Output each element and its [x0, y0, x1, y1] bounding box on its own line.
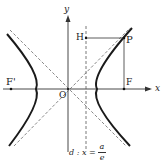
directrix-numerator: a [98, 143, 106, 151]
origin-label: O [59, 91, 66, 100]
y-axis-arrow-icon [66, 15, 71, 22]
point-h-label: H [76, 33, 84, 42]
diagram-svg [0, 0, 165, 166]
x-axis-arrow-icon [145, 87, 152, 92]
directrix-equation: d : x = [69, 149, 96, 157]
point-f-prime [10, 88, 13, 91]
point-origin [67, 88, 69, 90]
point-f [123, 88, 126, 91]
point-p [123, 37, 126, 40]
x-axis-label: x [155, 84, 160, 93]
point-p-label: P [126, 35, 133, 45]
point-h [85, 37, 87, 39]
focus-prime-label: F' [6, 77, 16, 87]
directrix-denominator: e [98, 154, 106, 162]
hyperbola-right-branch [96, 28, 132, 146]
asymptote-positive [14, 28, 130, 146]
focus-label: F [126, 78, 132, 87]
hyperbola-diagram: y x O F F' P H d : x = a e [0, 0, 165, 166]
y-axis-label: y [64, 5, 69, 14]
